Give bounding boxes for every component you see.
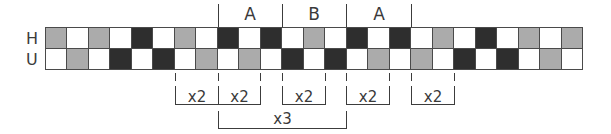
grid-cell-h-23 [519,28,540,48]
grid-cell-u-21 [476,49,497,70]
grid-cell-u-3 [89,49,110,70]
grid-cell-u-5 [132,49,153,70]
color-grid [45,27,583,70]
grid-cell-h-19 [433,28,454,48]
grid-cell-h-5 [132,28,153,48]
grid-cell-u-4 [110,49,131,70]
row-h [46,28,582,49]
grid-cell-h-11 [261,28,282,48]
bracket-dash [454,73,455,81]
grid-cell-h-8 [196,28,217,48]
repeat-label-5: x2 [411,89,455,105]
grid-cell-h-10 [239,28,260,48]
grid-cell-h-9 [218,28,239,48]
grid-cell-u-11 [261,49,282,70]
grid-cell-u-13 [304,49,325,70]
repeat-label-outer: x3 [218,111,347,127]
bracket-dash [260,73,261,81]
grid-cell-u-16 [368,49,389,70]
grid-cell-u-10 [239,49,260,70]
grid-cell-h-2 [67,28,88,48]
grid-cell-h-17 [390,28,411,48]
section-label-a1: A [230,5,270,23]
grid-cell-u-19 [433,49,454,70]
grid-cell-u-25 [562,49,582,70]
grid-cell-h-25 [562,28,582,48]
grid-cell-u-23 [519,49,540,70]
grid-cell-h-6 [153,28,174,48]
bracket-dash [325,73,326,81]
grid-cell-u-17 [390,49,411,70]
section-divider [282,4,283,27]
row-label-h: H [26,31,38,47]
section-divider [218,4,219,27]
grid-cell-h-20 [454,28,475,48]
grid-cell-h-24 [540,28,561,48]
bracket-dash [218,73,219,81]
bracket-dash [346,73,347,81]
grid-cell-h-14 [325,28,346,48]
repeat-label-4: x2 [346,89,390,105]
grid-cell-u-2 [67,49,88,70]
row-u [46,49,582,70]
section-divider [411,4,412,27]
grid-cell-u-7 [175,49,196,70]
section-divider [346,4,347,27]
grid-cell-h-18 [411,28,432,48]
repeat-label-2: x2 [218,89,261,105]
grid-cell-h-15 [347,28,368,48]
grid-cell-h-22 [497,28,518,48]
grid-cell-u-9 [218,49,239,70]
grid-cell-u-22 [497,49,518,70]
grid-cell-u-1 [46,49,67,70]
section-label-b: B [294,5,334,23]
grid-cell-h-16 [368,28,389,48]
grid-cell-u-20 [454,49,475,70]
grid-cell-u-12 [282,49,303,70]
bracket-dash [389,73,390,81]
grid-cell-u-8 [196,49,217,70]
grid-cell-h-1 [46,28,67,48]
grid-cell-h-4 [110,28,131,48]
grid-cell-u-24 [540,49,561,70]
grid-cell-u-15 [347,49,368,70]
repeat-label-3: x2 [282,89,326,105]
bracket-dash [411,73,412,81]
row-label-u: U [26,52,38,68]
grid-cell-h-3 [89,28,110,48]
section-label-a2: A [359,5,399,23]
grid-cell-u-14 [325,49,346,70]
repeat-label-1: x2 [175,89,219,105]
grid-cell-u-6 [153,49,174,70]
grid-cell-h-7 [175,28,196,48]
bracket-dash [282,73,283,81]
grid-cell-h-21 [476,28,497,48]
grid-cell-h-13 [304,28,325,48]
grid-cell-u-18 [411,49,432,70]
bracket-dash [175,73,176,81]
grid-cell-h-12 [282,28,303,48]
